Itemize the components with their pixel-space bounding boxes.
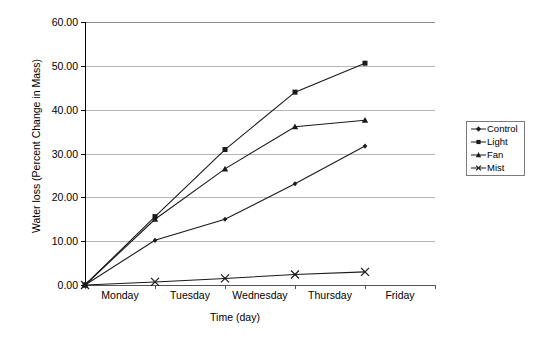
series-mist: [81, 268, 369, 289]
series-fan: [82, 117, 368, 288]
cross-marker-icon: [470, 162, 487, 174]
series-light: [83, 61, 368, 288]
square-marker-icon: [470, 136, 487, 148]
legend-item-control[interactable]: Control: [467, 122, 524, 135]
legend-item-mist[interactable]: Mist: [467, 161, 524, 174]
legend-item-fan[interactable]: Fan: [467, 148, 524, 161]
legend-item-light[interactable]: Light: [467, 135, 524, 148]
legend-label-light: Light: [487, 136, 508, 147]
legend-label-mist: Mist: [487, 162, 504, 173]
legend: Control Light Fan: [466, 121, 525, 176]
legend-label-control: Control: [487, 123, 518, 134]
diamond-marker-icon: [470, 123, 487, 135]
legend-label-fan: Fan: [487, 149, 503, 160]
line-chart: 60.00 50.00 40.00 30.00 20.00 10.00 0.00…: [0, 0, 536, 339]
triangle-marker-icon: [470, 149, 487, 161]
series-control: [83, 143, 368, 287]
series-layer: [0, 0, 536, 339]
